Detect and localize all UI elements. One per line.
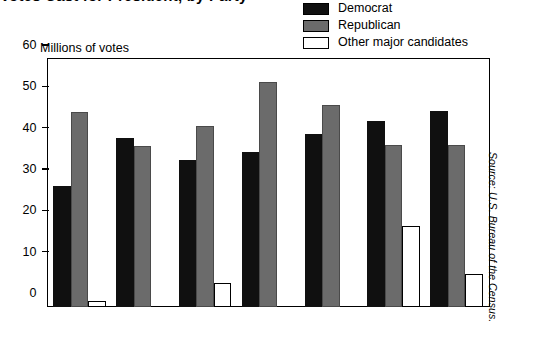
bar-group-1996 (430, 111, 483, 307)
bar-group-1972 (53, 112, 106, 307)
y-axis-tick-mark (42, 210, 49, 212)
bar-group-1984 (242, 82, 295, 307)
bar-1976-republican[interactable] (134, 146, 152, 307)
bar-1980-democrat[interactable] (179, 160, 197, 307)
bar-1996-democrat[interactable] (430, 111, 448, 307)
legend-label-other: Other major candidates (338, 36, 468, 49)
y-axis-tick-20: 20 (23, 203, 49, 217)
legend-label-republican: Republican (338, 19, 401, 32)
bar-1984-democrat[interactable] (242, 152, 260, 307)
bar-1996-republican[interactable] (448, 145, 466, 307)
bar-1972-other[interactable] (88, 301, 106, 307)
bar-group-1976 (116, 138, 169, 307)
legend-swatch-democrat (303, 3, 329, 15)
y-axis-tick-label: 40 (23, 121, 37, 135)
bar-1988-republican[interactable] (322, 105, 340, 307)
bar-1992-republican[interactable] (385, 145, 403, 307)
y-axis-tick-mark (42, 168, 49, 170)
chart-legend: Democrat Republican Other major candidat… (303, 1, 538, 52)
y-axis-tick-label: 0 (30, 286, 37, 300)
bar-1984-republican[interactable] (259, 82, 277, 307)
y-axis-tick-label: 10 (23, 245, 37, 259)
bar-1972-republican[interactable] (71, 112, 89, 307)
bar-group-1980 (179, 126, 232, 307)
y-axis-tick-label: 60 (23, 38, 37, 52)
bar-group-1988 (305, 105, 358, 307)
y-axis-tick-mark (42, 292, 49, 294)
legend-item-democrat: Democrat (303, 1, 538, 16)
bar-1992-other[interactable] (402, 226, 420, 307)
plot-area: 0102030405060197219761980198419881992199… (49, 60, 489, 308)
bar-group-1992 (367, 121, 420, 307)
bar-1976-democrat[interactable] (116, 138, 134, 307)
y-axis-tick-40: 40 (23, 121, 49, 135)
bar-1992-democrat[interactable] (367, 121, 385, 307)
bar-1972-democrat[interactable] (53, 186, 71, 307)
y-axis-tick-0: 0 (30, 286, 49, 300)
y-axis-tick-60: 60 (23, 38, 49, 52)
y-axis-tick-10: 10 (23, 245, 49, 259)
y-axis-tick-mark (42, 44, 49, 46)
y-axis-tick-label: 30 (23, 162, 37, 176)
y-axis-tick-50: 50 (23, 79, 49, 93)
bar-1988-democrat[interactable] (305, 134, 323, 307)
y-axis-caption: Millions of votes (40, 41, 129, 55)
y-axis-tick-label: 20 (23, 203, 37, 217)
legend-swatch-republican (303, 20, 329, 32)
bar-1980-other[interactable] (214, 283, 232, 307)
bar-1996-other[interactable] (465, 274, 483, 307)
legend-label-democrat: Democrat (338, 2, 392, 15)
source-note: Source: U.S. Bureau of the Census. (487, 152, 499, 322)
bar-1980-republican[interactable] (196, 126, 214, 307)
legend-item-republican: Republican (303, 18, 538, 33)
y-axis-tick-mark (42, 86, 49, 88)
y-axis-tick-label: 50 (23, 79, 37, 93)
y-axis-tick-mark (42, 251, 49, 253)
legend-item-other: Other major candidates (303, 35, 538, 50)
legend-swatch-other (303, 37, 329, 49)
y-axis-tick-30: 30 (23, 162, 49, 176)
y-axis-tick-mark (42, 127, 49, 129)
